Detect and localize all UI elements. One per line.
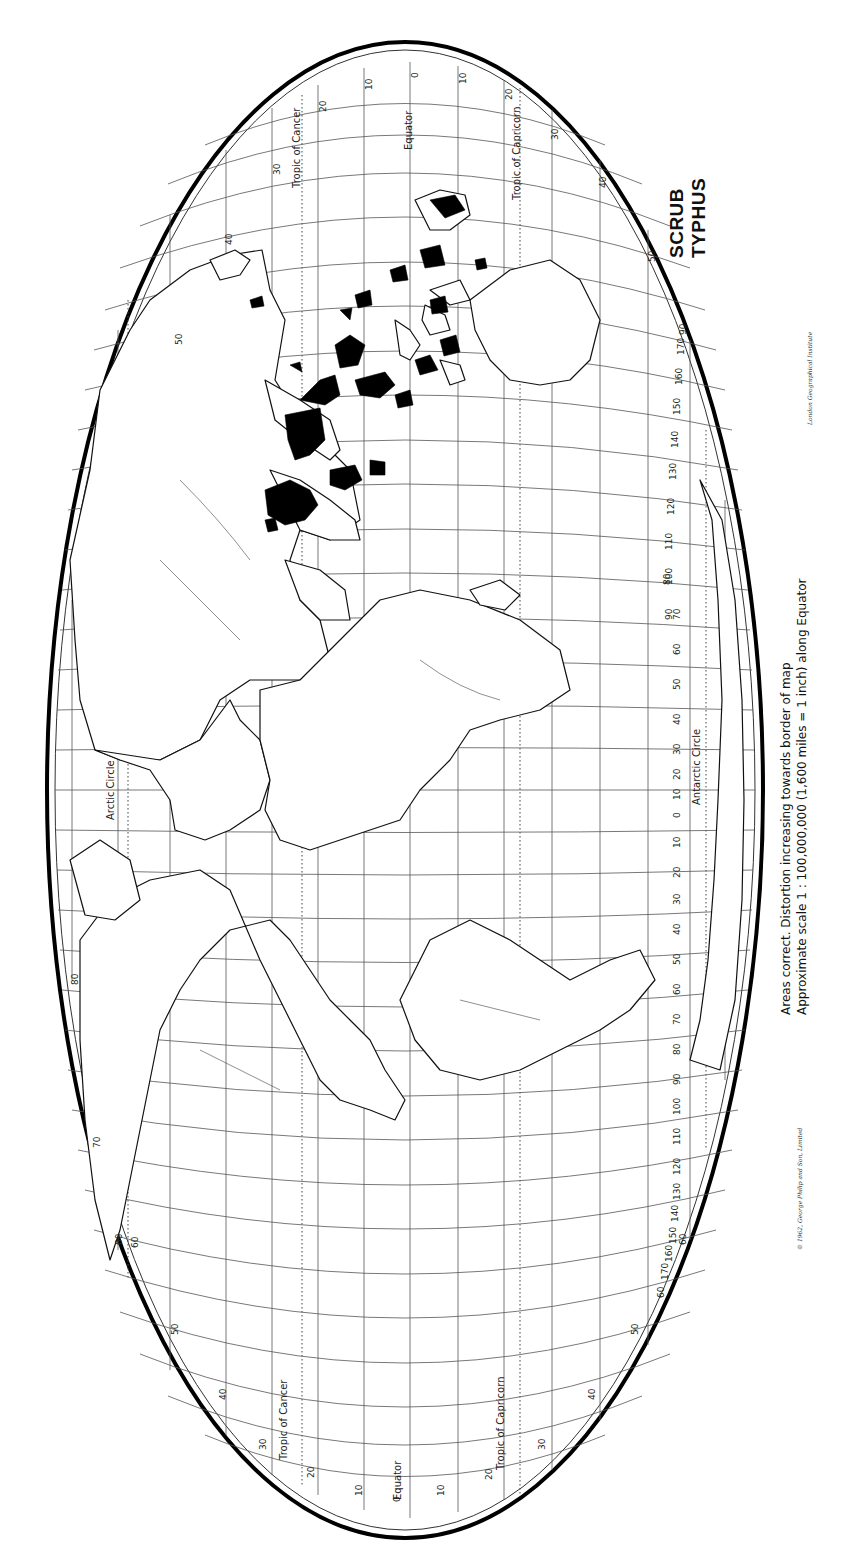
svg-text:60: 60 bbox=[672, 643, 682, 655]
map-title: SCRUB TYPHUS bbox=[666, 178, 709, 258]
tropic-of-cancer-top: Tropic of Cancer bbox=[291, 107, 302, 189]
svg-text:Approximate scale 1 : 100,000,: Approximate scale 1 : 100,000,000 (1,600… bbox=[795, 578, 809, 1015]
equator-top: Equator bbox=[403, 110, 414, 150]
svg-text:140: 140 bbox=[670, 1205, 680, 1222]
svg-text:0: 0 bbox=[672, 812, 682, 818]
svg-text:170: 170 bbox=[660, 1263, 670, 1280]
svg-text:160: 160 bbox=[664, 1245, 674, 1262]
svg-text:130: 130 bbox=[668, 463, 678, 480]
scale-note: Areas correct. Distortion increasing tow… bbox=[779, 578, 809, 1015]
svg-text:90: 90 bbox=[672, 1073, 682, 1085]
svg-text:20: 20 bbox=[504, 88, 514, 100]
svg-text:20: 20 bbox=[484, 1468, 494, 1480]
svg-text:30: 30 bbox=[272, 163, 282, 175]
svg-text:150: 150 bbox=[668, 1227, 678, 1244]
svg-text:60: 60 bbox=[656, 1286, 666, 1298]
svg-text:10: 10 bbox=[436, 1484, 446, 1496]
svg-text:120: 120 bbox=[672, 1158, 682, 1175]
svg-text:70: 70 bbox=[92, 1136, 102, 1148]
svg-text:10: 10 bbox=[672, 788, 682, 800]
svg-text:60: 60 bbox=[130, 1236, 140, 1248]
tropic-of-capricorn-top: Tropic of Capricorn bbox=[511, 106, 522, 201]
svg-text:40: 40 bbox=[598, 176, 608, 188]
svg-text:50: 50 bbox=[647, 250, 657, 262]
arctic-circle: Arctic Circle bbox=[105, 760, 116, 820]
svg-text:0: 0 bbox=[410, 72, 420, 78]
svg-text:160: 160 bbox=[674, 368, 684, 385]
svg-text:80: 80 bbox=[672, 1043, 682, 1055]
svg-text:30: 30 bbox=[550, 128, 560, 140]
svg-text:10: 10 bbox=[354, 1484, 364, 1496]
svg-text:50: 50 bbox=[672, 953, 682, 965]
svg-text:110: 110 bbox=[672, 1128, 682, 1145]
svg-text:TYPHUS: TYPHUS bbox=[688, 178, 709, 258]
svg-text:10: 10 bbox=[364, 78, 374, 90]
svg-text:40: 40 bbox=[672, 713, 682, 725]
svg-text:50: 50 bbox=[174, 333, 184, 345]
svg-text:30: 30 bbox=[258, 1438, 268, 1450]
svg-text:150: 150 bbox=[672, 398, 682, 415]
svg-text:50: 50 bbox=[170, 1323, 180, 1335]
svg-text:10: 10 bbox=[458, 72, 468, 84]
svg-text:SCRUB: SCRUB bbox=[666, 188, 687, 258]
svg-text:50: 50 bbox=[672, 678, 682, 690]
svg-text:170: 170 bbox=[676, 338, 686, 355]
svg-text:70: 70 bbox=[672, 608, 682, 620]
svg-text:20: 20 bbox=[672, 866, 682, 878]
svg-text:40: 40 bbox=[218, 1388, 228, 1400]
svg-text:80: 80 bbox=[662, 573, 672, 585]
svg-text:40: 40 bbox=[672, 923, 682, 935]
svg-text:60: 60 bbox=[678, 1233, 688, 1245]
svg-text:60: 60 bbox=[672, 983, 682, 995]
svg-text:20: 20 bbox=[318, 100, 328, 112]
svg-text:40: 40 bbox=[224, 233, 234, 245]
svg-text:90: 90 bbox=[678, 323, 688, 335]
svg-text:70: 70 bbox=[672, 1013, 682, 1025]
svg-text:100: 100 bbox=[672, 1098, 682, 1115]
svg-text:80: 80 bbox=[70, 973, 80, 985]
tropic-of-cancer-bottom: Tropic of Cancer bbox=[278, 1379, 289, 1461]
world-map: 60 50 40 30 20 10 0 10 20 30 40 50 80 70… bbox=[0, 0, 854, 1567]
svg-text:60: 60 bbox=[114, 1233, 124, 1245]
svg-text:120: 120 bbox=[666, 498, 676, 515]
svg-text:10: 10 bbox=[672, 836, 682, 848]
svg-text:20: 20 bbox=[306, 1466, 316, 1478]
svg-text:110: 110 bbox=[664, 533, 674, 550]
svg-text:40: 40 bbox=[587, 1388, 597, 1400]
institute-credit: London Geographical Institute bbox=[806, 331, 814, 426]
svg-text:Areas correct. Distortion in: Areas correct. Distortion increasing tow… bbox=[779, 662, 793, 1015]
svg-text:130: 130 bbox=[672, 1183, 682, 1200]
equator-bottom: Equator bbox=[392, 1460, 403, 1500]
svg-text:50: 50 bbox=[630, 1323, 640, 1335]
antarctic-circle: Antarctic Circle bbox=[691, 729, 702, 805]
svg-text:20: 20 bbox=[672, 768, 682, 780]
svg-text:30: 30 bbox=[537, 1438, 547, 1450]
svg-text:140: 140 bbox=[670, 431, 680, 448]
svg-text:30: 30 bbox=[672, 893, 682, 905]
copyright-credit: © 1962, George Philip and Son, Limited bbox=[796, 1127, 804, 1250]
tropic-of-capricorn-bottom: Tropic of Capricorn bbox=[495, 1376, 506, 1471]
svg-text:30: 30 bbox=[672, 743, 682, 755]
